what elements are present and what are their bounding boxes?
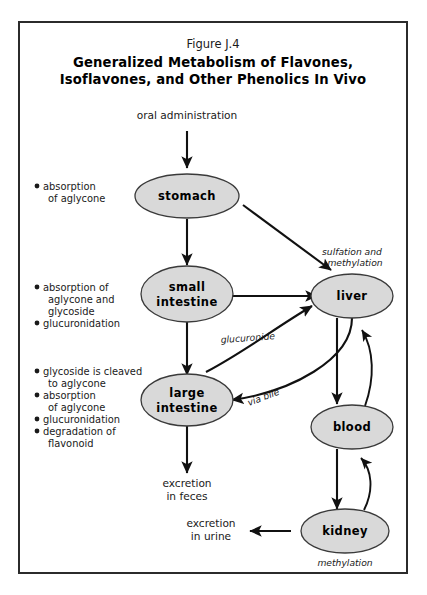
annotation-small-intestine: absorption of aglycone and glycoside glu…	[35, 282, 120, 329]
si-note-0-line-0: absorption of	[43, 282, 109, 293]
bullet-dot-icon	[35, 429, 40, 434]
node-small-intestine[interactable]: small intestine	[141, 266, 233, 322]
node-stomach[interactable]: stomach	[135, 174, 239, 218]
excretion-urine-line1: excretion	[186, 517, 235, 529]
figure-number: Figure J.4	[186, 37, 239, 51]
sulfation-label-line1: sulfation and	[322, 246, 382, 257]
glucuronide-label: glucuronide	[220, 330, 275, 345]
bullet-dot-icon	[35, 184, 40, 189]
metabolism-diagram: Figure J.4 Generalized Metabolism of Fla…	[0, 0, 427, 595]
edge-stomach-to-liver	[243, 205, 331, 270]
bullet-dot-icon	[35, 321, 40, 326]
stomach-note-0-line-0: absorption	[43, 181, 96, 192]
li-note-0-line-1: to aglycone	[48, 378, 106, 389]
edge-kidney-to-blood	[361, 458, 370, 510]
li-note-2-line-0: glucuronidation	[43, 414, 120, 425]
small-intestine-label-line2: intestine	[156, 295, 217, 309]
figure-root: Figure J.4 Generalized Metabolism of Fla…	[0, 0, 427, 595]
large-intestine-ellipse	[141, 374, 233, 426]
li-note-1-line-1: of aglycone	[48, 402, 105, 413]
bullet-dot-icon	[35, 393, 40, 398]
li-note-3-line-1: flavonoid	[48, 438, 93, 449]
si-note-1-line-0: glucuronidation	[43, 318, 120, 329]
bullet-dot-icon	[35, 417, 40, 422]
li-note-1-line-0: absorption	[43, 390, 96, 401]
via-bile-label: via bile	[246, 386, 281, 408]
annotation-large-intestine: glycoside is cleaved to aglycone absorpt…	[35, 366, 143, 449]
large-intestine-label-line2: intestine	[156, 401, 217, 415]
edge-blood-to-liver	[362, 330, 372, 406]
oral-administration-label: oral administration	[137, 109, 238, 121]
bullet-dot-icon	[35, 285, 40, 290]
excretion-feces-line1: excretion	[162, 477, 211, 489]
kidney-label: kidney	[322, 524, 368, 538]
small-intestine-label-line1: small	[169, 280, 205, 294]
si-note-0-line-2: glycoside	[48, 306, 95, 317]
small-intestine-ellipse	[141, 266, 233, 322]
si-note-0-line-1: aglycone and	[48, 294, 114, 305]
large-intestine-label-line1: large	[169, 386, 204, 400]
bullet-dot-icon	[35, 369, 40, 374]
stomach-note-0-line-1: of aglycone	[48, 193, 105, 204]
methylation-label: methylation	[317, 557, 372, 568]
stomach-label: stomach	[158, 189, 216, 203]
li-note-0-line-0: glycoside is cleaved	[43, 366, 142, 377]
excretion-urine-line2: in urine	[191, 530, 231, 542]
node-large-intestine[interactable]: large intestine	[141, 374, 233, 426]
blood-label: blood	[333, 420, 371, 434]
excretion-feces-line2: in feces	[166, 490, 207, 502]
node-blood[interactable]: blood	[311, 405, 393, 449]
node-liver[interactable]: liver	[311, 274, 393, 318]
edge-liver-to-large-intestine-via-bile	[232, 318, 352, 400]
liver-label: liver	[337, 289, 368, 303]
node-kidney[interactable]: kidney	[301, 509, 389, 553]
figure-title-line2: Isoflavones, and Other Phenolics In Vivo	[60, 72, 366, 87]
li-note-3-line-0: degradation of	[43, 426, 116, 437]
sulfation-label-line2: methylation	[327, 257, 382, 268]
figure-title-line1: Generalized Metabolism of Flavones,	[73, 55, 353, 70]
annotation-stomach: absorption of aglycone	[35, 181, 106, 204]
